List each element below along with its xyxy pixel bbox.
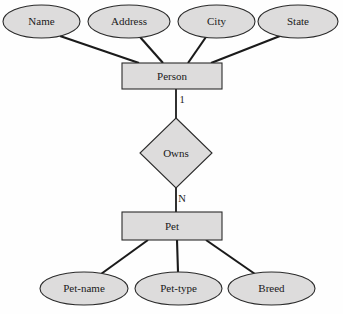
attribute-state-label: State [287, 15, 309, 27]
attribute-pet-name-label: Pet-name [63, 282, 105, 294]
entity-person[interactable]: Person [122, 63, 222, 89]
attribute-breed-label: Breed [258, 282, 285, 294]
er-diagram-svg: Name Address City State Person 1 Owns N [0, 0, 343, 314]
edge-state-person [211, 36, 280, 63]
cardinality-many-label: N [178, 193, 186, 204]
attribute-city-label: City [207, 15, 226, 27]
edge-name-person [60, 36, 139, 63]
edge-pet-petname [101, 240, 148, 274]
edge-city-person [188, 37, 206, 63]
entity-pet[interactable]: Pet [122, 212, 222, 240]
attribute-pet-type[interactable]: Pet-type [135, 272, 222, 305]
attribute-breed[interactable]: Breed [228, 272, 315, 305]
entity-pet-label: Pet [165, 220, 179, 232]
cardinality-one-label: 1 [179, 94, 184, 105]
edge-pet-breed [206, 240, 255, 274]
attribute-address[interactable]: Address [88, 5, 170, 38]
er-diagram-canvas: Name Address City State Person 1 Owns N [0, 0, 343, 314]
attribute-city[interactable]: City [178, 5, 255, 38]
relationship-owns[interactable]: Owns [140, 118, 212, 188]
entity-person-label: Person [157, 70, 187, 82]
attribute-address-label: Address [111, 15, 147, 27]
edge-address-person [140, 37, 163, 63]
attribute-name-label: Name [28, 15, 54, 27]
attribute-state[interactable]: State [258, 5, 338, 38]
pet-attribute-edges [101, 240, 255, 274]
attribute-pet-type-label: Pet-type [160, 282, 197, 294]
person-attribute-edges [60, 36, 280, 63]
attribute-pet-name[interactable]: Pet-name [40, 272, 128, 305]
relationship-owns-label: Owns [163, 147, 189, 159]
attribute-name[interactable]: Name [3, 5, 80, 38]
edge-pet-pettype [177, 240, 178, 272]
